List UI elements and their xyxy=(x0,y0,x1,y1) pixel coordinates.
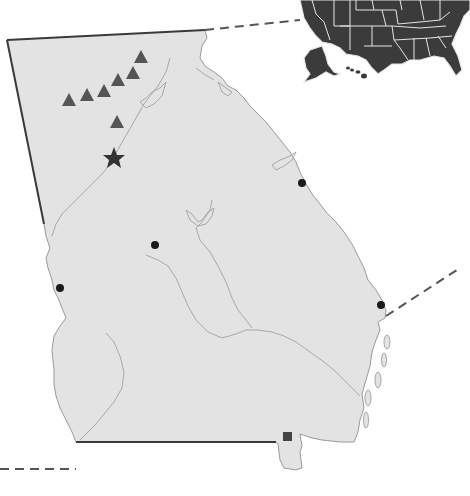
georgia-state-shape xyxy=(7,30,386,470)
connector-line-east xyxy=(386,268,460,316)
usa-inset xyxy=(300,0,470,82)
hawaii-shape xyxy=(346,67,367,79)
connector-line-north xyxy=(205,20,300,30)
dot-marker-icon xyxy=(151,241,159,249)
square-marker-icon xyxy=(283,432,292,441)
dot-marker-icon xyxy=(298,179,306,187)
dot-marker-icon xyxy=(56,284,64,292)
dot-marker-icon xyxy=(377,301,385,309)
alaska-shape xyxy=(304,46,340,82)
georgia-map xyxy=(0,0,470,496)
